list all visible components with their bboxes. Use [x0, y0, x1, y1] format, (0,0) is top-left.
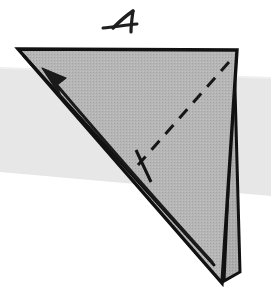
- origami-diagram-canvas: [0, 0, 271, 308]
- origami-figure: Origami fold step 4: [0, 0, 271, 308]
